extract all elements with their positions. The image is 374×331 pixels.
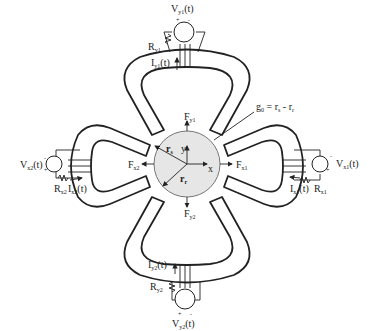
- force-x1-label: Fx1: [236, 159, 248, 171]
- plus-y1: +: [176, 17, 180, 23]
- resistor-y2-label: Ry2: [150, 281, 163, 293]
- magnetic-bearing-diagram: Vy1(t) + - Ry1 Iy1(t) + - Vy2(t) Ry2 Iy2…: [0, 0, 374, 331]
- voltage-y1-label: Vy1(t): [171, 3, 194, 15]
- resistor-x2-label: Rx2: [54, 183, 67, 195]
- minus-x2: -: [44, 155, 46, 161]
- current-x2-label: Ix2(t): [68, 183, 87, 195]
- y-axis-label: y: [181, 143, 186, 154]
- current-y1-label: Iy1(t): [151, 57, 170, 69]
- minus-y2: -: [190, 311, 192, 317]
- plus-y2: +: [178, 311, 182, 317]
- resistor-y1-label: Ry1: [148, 41, 161, 53]
- current-y2-label: Iy2(t): [148, 259, 167, 271]
- minus-x1: -: [330, 153, 332, 159]
- x-axis-label: x: [208, 163, 213, 174]
- plus-x1: +: [326, 167, 330, 173]
- resistor-x1-label: Rx1: [314, 183, 327, 195]
- force-y2-label: Fy2: [184, 208, 196, 220]
- force-x2-label: Fx2: [128, 159, 140, 171]
- minus-y1: -: [188, 17, 190, 23]
- voltage-x2-label: Vx2(t): [20, 159, 43, 171]
- voltage-y2-label: Vy2(t): [172, 318, 195, 330]
- voltage-x1-label: Vx1(t): [336, 158, 359, 170]
- force-y1-label: Fy1: [184, 111, 196, 123]
- current-x1-label: Ix1(t): [290, 183, 309, 195]
- gap-equation: g0 = rs - rr: [256, 101, 294, 113]
